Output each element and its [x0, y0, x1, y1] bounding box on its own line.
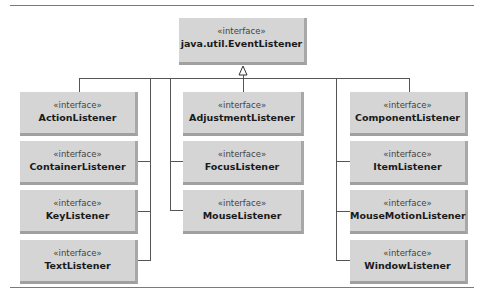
interface-box: «interface» ComponentListener: [350, 92, 468, 136]
middle-connector: [170, 78, 171, 211]
interface-box: «interface» ItemListener: [350, 141, 468, 185]
stereotype-label: «interface»: [350, 198, 465, 209]
interface-name: MouseMotionListener: [350, 209, 465, 222]
branch-text: [138, 260, 151, 261]
branch-window: [336, 260, 350, 261]
interface-name: WindowListener: [350, 259, 465, 272]
stereotype-label: «interface»: [350, 100, 465, 111]
branch-focus: [170, 161, 183, 162]
drop-line-right: [409, 78, 410, 92]
stereotype-label: «interface»: [20, 100, 135, 111]
stereotype-label: «interface»: [20, 198, 135, 209]
interface-name: MouseListener: [183, 209, 301, 222]
interface-box: «interface» AdjustmentListener: [183, 92, 304, 136]
stereotype-label: «interface»: [183, 100, 301, 111]
interface-name: ComponentListener: [350, 111, 465, 124]
root-interface-box: «interface» java.util.EventListener: [179, 18, 307, 65]
branch-mouse: [170, 210, 183, 211]
stereotype-label: «interface»: [20, 149, 135, 160]
stereotype-label: «interface»: [183, 198, 301, 209]
right-connector: [336, 78, 337, 261]
interface-box: «interface» MouseMotionListener: [350, 190, 468, 234]
interface-box: «interface» TextListener: [20, 240, 138, 284]
interface-box: «interface» ContainerListener: [20, 141, 138, 185]
stereotype-label: «interface»: [179, 26, 304, 37]
bottom-rule: [10, 287, 474, 288]
interface-name: ItemListener: [350, 160, 465, 173]
stereotype-label: «interface»: [20, 248, 135, 259]
stereotype-label: «interface»: [350, 149, 465, 160]
left-connector: [150, 78, 151, 261]
branch-container: [138, 161, 151, 162]
stereotype-label: «interface»: [350, 248, 465, 259]
interface-box: «interface» WindowListener: [350, 240, 468, 284]
drop-line-left: [79, 78, 80, 92]
interface-name: ActionListener: [20, 111, 135, 124]
interface-name: AdjustmentListener: [183, 111, 301, 124]
stereotype-label: «interface»: [183, 149, 301, 160]
interface-name: KeyListener: [20, 209, 135, 222]
interface-name: FocusListener: [183, 160, 301, 173]
interface-box: «interface» FocusListener: [183, 141, 304, 185]
top-rule: [10, 5, 474, 6]
interface-name: ContainerListener: [20, 160, 135, 173]
interface-box: «interface» ActionListener: [20, 92, 138, 136]
interface-box: «interface» MouseListener: [183, 190, 304, 234]
bus-line: [79, 78, 410, 79]
branch-mousemotion: [336, 211, 350, 212]
interface-name: TextListener: [20, 259, 135, 272]
branch-key: [138, 211, 151, 212]
interface-box: «interface» KeyListener: [20, 190, 138, 234]
branch-item: [336, 161, 350, 162]
interface-name: java.util.EventListener: [179, 37, 304, 50]
